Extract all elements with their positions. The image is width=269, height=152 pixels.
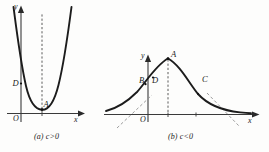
panel-a-vertex-point xyxy=(41,108,44,111)
panel-b-label-A: A xyxy=(171,50,176,59)
panel-b-max-point xyxy=(167,57,170,60)
panel-b-left-tangent xyxy=(117,95,152,128)
panel-a-caption: (a) c>0 xyxy=(34,133,59,141)
panel-a-label-A: A xyxy=(44,100,49,109)
figure-container: y O x D A (a) c>0 y O x B D A C (b) c<0 xyxy=(0,0,269,152)
panel-a-y-intercept-point xyxy=(20,82,22,84)
panel-b-origin-label: O xyxy=(140,116,146,124)
panel-a-label-D: D xyxy=(13,79,19,88)
panel-b-x-axis-label: x xyxy=(248,117,252,125)
panel-a-x-axis-arrow xyxy=(78,110,85,116)
panel-b-graphics xyxy=(104,55,260,129)
panel-a-origin-label: O xyxy=(13,115,19,123)
panel-a-x-axis-label: x xyxy=(74,116,78,124)
panel-b-point-b xyxy=(144,83,146,85)
panel-b-caption: (b) c<0 xyxy=(168,133,193,141)
panel-b-y-axis-arrow xyxy=(145,55,151,63)
panel-b-label-D: D xyxy=(152,76,158,85)
panel-b-curve xyxy=(106,59,251,114)
panel-a-curve xyxy=(14,7,72,110)
panel-b-x-axis-arrow xyxy=(252,111,260,117)
panel-b-label-B: B xyxy=(139,76,144,85)
panel-b-label-C: C xyxy=(202,75,208,84)
panel-a-y-axis-arrow xyxy=(18,6,24,14)
panel-b-point-c xyxy=(197,93,199,95)
panel-b-y-axis-label: y xyxy=(141,52,145,60)
figure-svg xyxy=(0,0,269,152)
panel-a-y-axis-label: y xyxy=(14,3,18,11)
